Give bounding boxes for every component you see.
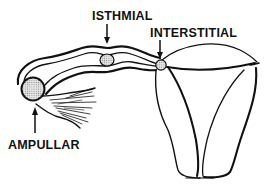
uterus bbox=[156, 44, 259, 178]
interstitial-arrow-icon bbox=[157, 40, 163, 59]
diagram-canvas: ISTHMIAL INTERSTITIAL AMPULLAR bbox=[0, 0, 268, 187]
implantation-sites bbox=[22, 54, 167, 101]
ampullar-arrow-icon bbox=[32, 107, 38, 133]
ampullar-label: AMPULLAR bbox=[8, 138, 80, 152]
ampullar-site bbox=[22, 78, 45, 101]
fallopian-tube-diagram: ISTHMIAL INTERSTITIAL AMPULLAR bbox=[0, 0, 268, 187]
isthmial-arrow-icon bbox=[104, 24, 110, 44]
isthmial-site bbox=[100, 54, 114, 66]
interstitial-site bbox=[156, 60, 166, 70]
isthmial-label: ISTHMIAL bbox=[92, 9, 153, 23]
interstitial-label: INTERSTITIAL bbox=[150, 26, 237, 40]
